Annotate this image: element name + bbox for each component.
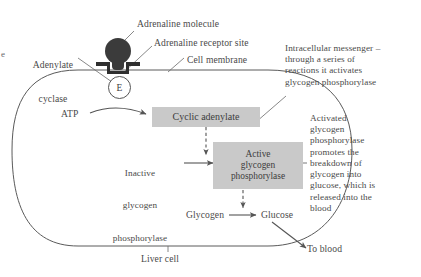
- node-glycogen-label: Glycogen: [186, 209, 224, 220]
- cell-label-liver-cell: Liver cell: [141, 253, 179, 264]
- node-to-blood-label: To blood: [307, 243, 342, 254]
- callout-adrenaline-molecule: Adrenaline molecule: [137, 18, 219, 29]
- cyclic-adenylate-label: Cyclic adenylate: [173, 111, 240, 123]
- callout-adenylate-cyclase: Adenylate cyclase: [16, 36, 90, 127]
- node-glucose-label: Glucose: [261, 209, 293, 220]
- active-phosphorylase-line3: phosphorylase: [231, 171, 285, 182]
- edge-text-fragment-left: e: [1, 49, 5, 59]
- active-phosphorylase-line2: glycogen: [241, 160, 275, 171]
- inactive-phosphorylase-line1: Inactive: [94, 168, 186, 179]
- inactive-phosphorylase-line3: phosphorylase: [94, 233, 186, 244]
- diagram-canvas: E Cyclic adenylate Active glycogen phosp…: [0, 0, 421, 277]
- receptor-lip-right-icon: [128, 62, 140, 66]
- adenylate-cyclase-line2: cyclase: [16, 93, 90, 104]
- node-inactive-glycogen-phosphorylase: Inactive glycogen phosphorylase: [94, 146, 186, 265]
- adrenaline-receptor-site-icon: [107, 62, 129, 74]
- leader-intracellular-messenger: [256, 96, 286, 122]
- callout-activated-glycogen-phosphorylase: Activated glycogen phosphorylase promote…: [310, 113, 418, 214]
- inactive-phosphorylase-line2: glycogen: [94, 200, 186, 211]
- callout-cell-membrane: Cell membrane: [187, 54, 247, 65]
- receptor-lip-left-icon: [96, 62, 108, 66]
- node-cyclic-adenylate: Cyclic adenylate: [152, 107, 260, 127]
- active-phosphorylase-line1: Active: [246, 149, 271, 160]
- adenylate-cyclase-line1: Adenylate: [16, 59, 90, 70]
- adenylate-cyclase-enzyme-icon: E: [108, 76, 131, 99]
- callout-adrenaline-receptor-site: Adrenaline receptor site: [154, 37, 249, 48]
- enzyme-symbol-label: E: [117, 83, 123, 93]
- arrow-atp-to-cyclic-adenylate: [90, 108, 146, 114]
- node-active-glycogen-phosphorylase: Active glycogen phosphorylase: [213, 142, 303, 189]
- callout-intracellular-messenger: Intracellular messenger – through a seri…: [285, 43, 421, 88]
